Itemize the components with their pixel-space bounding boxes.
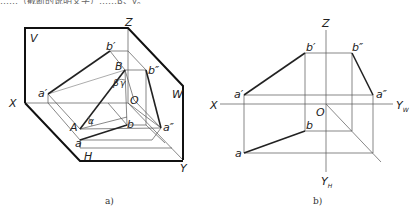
label-B: B — [115, 60, 123, 73]
figure-b: Z X O YW YH b′ b″ a′ a″ b a b) — [209, 17, 410, 206]
line-a-dprime-b-dprime — [146, 70, 161, 128]
label-a-prime-b: a′ — [234, 88, 244, 101]
label-a: a — [75, 137, 82, 150]
line-a-prime-b-prime-b — [244, 53, 305, 95]
label-a-double-prime: a″ — [163, 121, 175, 134]
figure-a: V Z W X H Y O b′ B b″ a′ A a b a″ α β γ … — [8, 16, 188, 206]
label-X-b: X — [209, 99, 218, 112]
caption-b: b) — [313, 196, 322, 206]
line-a-dprime-b-dprime-b — [352, 53, 373, 95]
caption-a: a) — [105, 196, 114, 206]
label-W: W — [172, 88, 184, 101]
label-Y: Y — [180, 162, 188, 175]
label-X: X — [8, 97, 17, 110]
label-A: A — [69, 121, 78, 134]
label-O-b: O — [316, 106, 325, 119]
label-b-prime-b: b′ — [306, 41, 316, 54]
label-Z-b: Z — [321, 17, 330, 30]
label-beta: β — [112, 78, 119, 88]
projection-diagram: V Z W X H Y O b′ B b″ a′ A a b a″ α β γ … — [0, 0, 419, 217]
label-H: H — [84, 150, 92, 163]
label-alpha: α — [88, 116, 94, 126]
line-a-prime-b-prime — [48, 51, 110, 94]
label-b-double-prime-b: b″ — [352, 41, 364, 54]
label-V: V — [30, 32, 39, 45]
label-Yw: YW — [396, 99, 410, 113]
figure-a-construction-lines — [25, 29, 183, 160]
label-b-double-prime: b″ — [148, 64, 160, 77]
label-a-double-prime-b: a″ — [376, 88, 388, 101]
label-a-b: a — [235, 147, 242, 160]
label-gamma: γ — [120, 78, 126, 88]
label-a-prime: a′ — [38, 87, 48, 100]
label-Z: Z — [124, 16, 133, 29]
label-b: b — [127, 118, 134, 131]
line-ab-b — [244, 131, 305, 153]
label-b-prime: b′ — [106, 40, 116, 53]
label-Yh: YH — [321, 175, 333, 189]
label-O: O — [130, 94, 139, 107]
label-b-b: b — [306, 119, 313, 132]
